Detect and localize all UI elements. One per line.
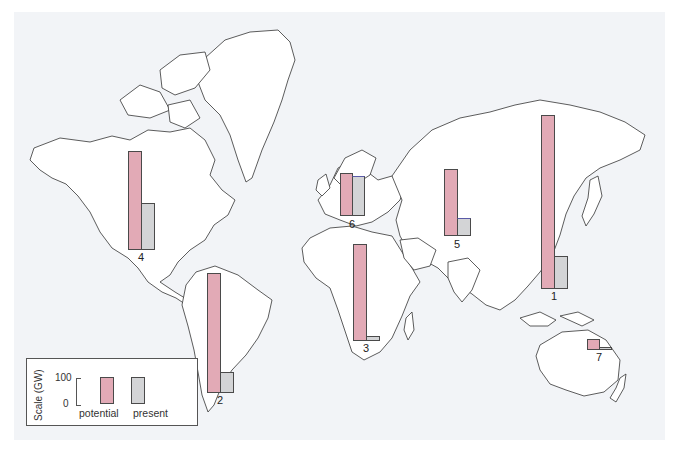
legend-swatch-present <box>131 377 145 404</box>
legend-axis-label: Scale (GW) <box>33 369 44 421</box>
region-label-7: 7 <box>589 351 609 363</box>
bar-potential-region-2 <box>207 273 221 393</box>
bar-present-region-2 <box>220 372 234 393</box>
bar-present-region-3 <box>366 336 380 341</box>
bar-present-region-6 <box>352 176 365 216</box>
australia <box>536 330 620 396</box>
region-label-4: 4 <box>131 251 151 263</box>
region-label-3: 3 <box>356 342 376 354</box>
bar-present-region-7 <box>599 347 612 350</box>
bar-potential-region-5 <box>444 169 458 236</box>
legend-tick-100: 100 <box>55 372 72 383</box>
legend-label-potential: potential <box>79 407 119 419</box>
bar-potential-region-3 <box>353 244 367 341</box>
asia <box>392 100 645 310</box>
legend-label-present: present <box>133 407 168 419</box>
bar-potential-region-1 <box>541 115 555 289</box>
bar-present-region-5 <box>457 218 471 236</box>
region-label-5: 5 <box>447 238 467 250</box>
bar-present-region-1 <box>554 256 568 289</box>
legend: Scale (GW) 100 0 potential present <box>26 358 198 426</box>
legend-scale-bracket <box>76 378 81 406</box>
region-label-2: 2 <box>210 394 230 406</box>
bar-potential-region-4 <box>128 151 142 250</box>
region-label-6: 6 <box>342 218 362 230</box>
legend-swatch-potential <box>100 377 114 404</box>
legend-tick-0: 0 <box>63 398 69 409</box>
region-label-1: 1 <box>544 290 564 302</box>
bar-present-region-4 <box>141 203 155 250</box>
